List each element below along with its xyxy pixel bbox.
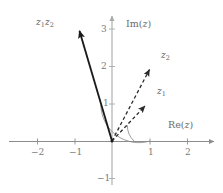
imag-label-main: Im( xyxy=(126,18,142,29)
z2-subscript: 2 xyxy=(166,54,170,62)
vector-label-z1: z1 xyxy=(157,87,166,97)
vector-label-z2: z2 xyxy=(161,51,170,61)
origin-point xyxy=(111,140,114,143)
imag-tick-label--1: −1 xyxy=(97,174,110,183)
z1-subscript: 1 xyxy=(162,90,166,98)
imag-tick-label-1: 1 xyxy=(103,99,109,108)
vector-z2 xyxy=(112,70,150,142)
real-label-close: ) xyxy=(190,119,194,130)
imag-label-close: ) xyxy=(147,18,151,29)
imaginary-axis-label: Im(z) xyxy=(126,19,151,29)
real-tick-label-2: 2 xyxy=(185,148,191,157)
real-tick-label-1: 1 xyxy=(148,148,154,157)
complex-plane-figure: Im(z) Re(z) −2 −1 1 2 3 2 1 −1 z1 z2 z1z… xyxy=(0,0,223,193)
imag-tick-label-3: 3 xyxy=(101,25,107,34)
real-axis-label: Re(z) xyxy=(168,120,193,130)
plot-canvas xyxy=(0,0,223,193)
imag-tick-label-2: 2 xyxy=(101,62,107,71)
arg-z1z2-arc xyxy=(101,105,150,143)
vector-z1 xyxy=(112,106,145,141)
real-label-main: Re( xyxy=(168,119,184,130)
arg-z1-arc xyxy=(127,125,134,141)
angle-arcs xyxy=(101,105,150,143)
vector-label-z1z2: z1z2 xyxy=(36,18,54,28)
vector-z1z2 xyxy=(80,31,113,141)
real-tick-label--1: −1 xyxy=(69,148,82,157)
real-tick-label--2: −2 xyxy=(31,148,44,157)
imaginary-axis xyxy=(109,16,115,185)
z1z2-subscript-2: 2 xyxy=(50,21,54,29)
